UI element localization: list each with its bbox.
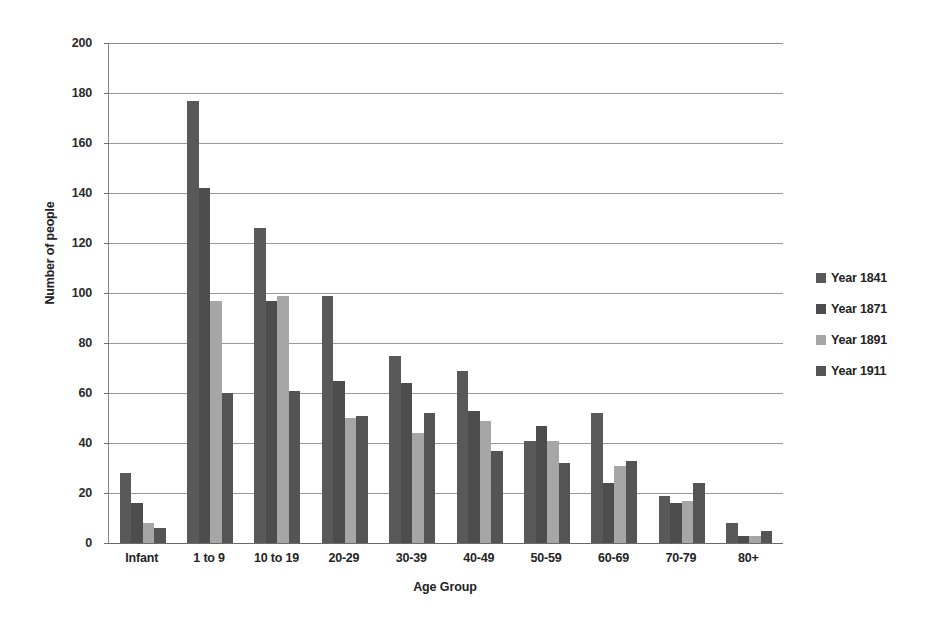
bar[interactable]: [333, 381, 345, 544]
bar[interactable]: [254, 228, 266, 543]
y-axis-tick-label: 60: [78, 386, 92, 400]
bar[interactable]: [670, 503, 682, 543]
y-axis-tick-label: 100: [72, 286, 92, 300]
bar[interactable]: [591, 413, 603, 543]
y-axis-tick-label: 180: [72, 86, 92, 100]
bar[interactable]: [761, 531, 773, 544]
legend-item[interactable]: Year 1841: [816, 262, 936, 293]
chart-legend: Year 1841Year 1871Year 1891Year 1911: [816, 262, 936, 386]
bar[interactable]: [131, 503, 143, 543]
bar[interactable]: [614, 466, 626, 544]
bar[interactable]: [322, 296, 334, 544]
legend-item[interactable]: Year 1891: [816, 324, 936, 355]
bar[interactable]: [738, 536, 750, 544]
x-axis-title: Age Group: [108, 580, 782, 594]
bar[interactable]: [210, 301, 222, 544]
x-axis-tick-label: 70-79: [665, 551, 696, 565]
y-axis-tick-label: 160: [72, 136, 92, 150]
bar[interactable]: [187, 101, 199, 544]
x-axis-tick-label: Infant: [125, 551, 158, 565]
legend-label: Year 1871: [831, 302, 887, 316]
bar[interactable]: [603, 483, 615, 543]
y-axis-tick-label: 200: [72, 36, 92, 50]
bar[interactable]: [154, 528, 166, 543]
y-axis-tick-labels: 020406080100120140160180200: [52, 43, 100, 543]
bar[interactable]: [547, 441, 559, 544]
bar[interactable]: [222, 393, 234, 543]
bar[interactable]: [491, 451, 503, 544]
bar[interactable]: [345, 418, 357, 543]
x-axis-tick-labels: Infant1 to 910 to 1920-2930-3940-4950-59…: [108, 551, 782, 575]
bar[interactable]: [401, 383, 413, 543]
x-axis-tick-label: 80+: [738, 551, 759, 565]
y-axis-tick-label: 40: [78, 436, 92, 450]
x-axis-tick-label: 1 to 9: [193, 551, 224, 565]
legend-label: Year 1841: [831, 271, 887, 285]
y-axis-tick-label: 120: [72, 236, 92, 250]
bar[interactable]: [143, 523, 155, 543]
bar[interactable]: [199, 188, 211, 543]
bar[interactable]: [424, 413, 436, 543]
bar[interactable]: [356, 416, 368, 544]
x-axis-tick-label: 60-69: [598, 551, 629, 565]
y-axis-tick-label: 80: [78, 336, 92, 350]
bar[interactable]: [726, 523, 738, 543]
bar[interactable]: [468, 411, 480, 544]
bar[interactable]: [536, 426, 548, 544]
x-axis-tick-label: 30-39: [396, 551, 427, 565]
plot-area: [108, 43, 783, 544]
bar[interactable]: [120, 473, 132, 543]
bar[interactable]: [266, 301, 278, 544]
x-axis-tick-label: 10 to 19: [254, 551, 299, 565]
bar[interactable]: [480, 421, 492, 544]
legend-swatch-icon: [816, 366, 826, 376]
x-axis-tick-label: 40-49: [463, 551, 494, 565]
bar-group: [176, 43, 243, 543]
bar-group: [109, 43, 176, 543]
legend-swatch-icon: [816, 304, 826, 314]
bar[interactable]: [524, 441, 536, 544]
bar-group: [716, 43, 783, 543]
bar[interactable]: [749, 536, 761, 544]
x-axis-tick-label: 50-59: [531, 551, 562, 565]
y-axis-tick-label: 0: [85, 536, 92, 550]
bar-group: [581, 43, 648, 543]
bar[interactable]: [412, 433, 424, 543]
bars-layer: [109, 43, 783, 543]
legend-swatch-icon: [816, 335, 826, 345]
bar-group: [446, 43, 513, 543]
bar-group: [311, 43, 378, 543]
legend-swatch-icon: [816, 273, 826, 283]
bar[interactable]: [626, 461, 638, 544]
bar[interactable]: [682, 501, 694, 544]
bar[interactable]: [659, 496, 671, 544]
legend-label: Year 1911: [831, 364, 886, 378]
bar-group: [648, 43, 715, 543]
bar[interactable]: [277, 296, 289, 544]
bar-group: [244, 43, 311, 543]
bar[interactable]: [389, 356, 401, 544]
bar-group: [379, 43, 446, 543]
legend-label: Year 1891: [831, 333, 887, 347]
bar-chart: Number of people 02040608010012014016018…: [0, 0, 947, 626]
bar[interactable]: [457, 371, 469, 544]
bar[interactable]: [559, 463, 571, 543]
y-axis-tick-label: 140: [72, 186, 92, 200]
x-axis-tick-label: 20-29: [328, 551, 359, 565]
bar[interactable]: [693, 483, 705, 543]
bar[interactable]: [289, 391, 301, 544]
legend-item[interactable]: Year 1871: [816, 293, 936, 324]
y-axis-tickmark: [104, 543, 109, 544]
legend-item[interactable]: Year 1911: [816, 355, 936, 386]
y-axis-tick-label: 20: [78, 486, 92, 500]
bar-group: [513, 43, 580, 543]
